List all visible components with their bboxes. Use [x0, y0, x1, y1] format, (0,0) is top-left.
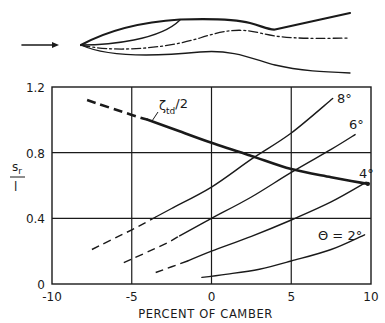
x-tick-label: -5 — [126, 290, 138, 304]
series-dashed-segment — [87, 100, 148, 120]
y-tick-label: 1.2 — [26, 81, 45, 95]
flow-direction-arrow-icon — [22, 42, 59, 48]
y-tick-label: 0.4 — [26, 212, 45, 226]
series-dashed-segment — [156, 261, 188, 273]
chart-plot-area: -10-5051000.40.81.2PERCENT OF CAMBERsrl8… — [10, 81, 379, 321]
svg-text:ζtd/2: ζtd/2 — [159, 96, 188, 116]
label-zeta-td-half: ζtd/2 — [152, 96, 370, 186]
airfoil-diagram — [22, 13, 350, 73]
figure: -10-5051000.40.81.2PERCENT OF CAMBERsrl8… — [0, 0, 385, 323]
airfoil-camber-line — [81, 30, 350, 49]
series-1 — [92, 99, 333, 250]
y-tick-label: 0 — [37, 278, 45, 292]
series-solid-segment — [188, 182, 367, 261]
label-4-deg: 4° — [359, 166, 374, 181]
y-axis-title: srl — [10, 160, 25, 194]
series-solid-segment — [180, 135, 356, 236]
x-tick-label: 0 — [208, 290, 216, 304]
zeta-end-marker — [366, 182, 370, 186]
label-6-deg: 6° — [349, 117, 364, 132]
svg-text:sr: sr — [12, 160, 22, 176]
x-axis-title: PERCENT OF CAMBER — [138, 307, 273, 321]
series-2 — [124, 135, 355, 263]
x-tick-label: 10 — [363, 290, 378, 304]
x-tick-label: -10 — [42, 290, 62, 304]
y-tick-label: 0.8 — [26, 147, 45, 161]
airfoil-inner-upper-contour — [81, 20, 180, 45]
svg-text:l: l — [14, 180, 17, 194]
label-theta-2-deg: Θ = 2° — [318, 228, 362, 243]
series-solid-segment — [156, 99, 333, 218]
series-dashed-segment — [92, 217, 156, 250]
x-tick-label: 5 — [287, 290, 295, 304]
airfoil-outer-upper-contour — [81, 13, 350, 45]
series-0 — [87, 100, 368, 184]
label-8-deg: 8° — [337, 91, 352, 106]
series-solid-segment — [148, 120, 368, 184]
